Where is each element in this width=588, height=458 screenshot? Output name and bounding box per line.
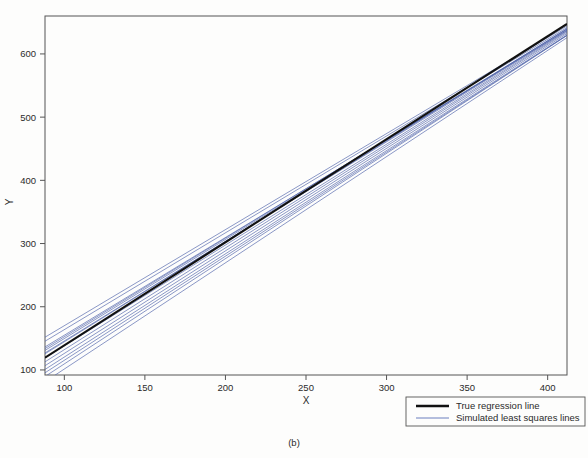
y-tick-label: 300 <box>20 238 36 249</box>
legend-label-simulated-lines: Simulated least squares lines <box>456 412 580 423</box>
figure-caption: (b) <box>288 437 300 448</box>
y-tick-label: 600 <box>20 48 36 59</box>
y-tick-label: 200 <box>20 301 36 312</box>
chart-legend: True regression line Simulated least squ… <box>406 397 585 426</box>
x-tick-label: 300 <box>379 382 395 393</box>
plot-frame <box>45 16 567 375</box>
x-tick-label: 400 <box>540 382 556 393</box>
x-tick-label: 150 <box>137 382 153 393</box>
x-tick-label: 100 <box>56 382 72 393</box>
x-axis-ticks: 100150200250300350400 <box>56 375 555 393</box>
y-tick-label: 500 <box>20 112 36 123</box>
x-tick-label: 200 <box>218 382 234 393</box>
y-axis-ticks: 100200300400500600 <box>20 48 45 375</box>
y-axis-title: Y <box>4 198 15 205</box>
x-tick-label: 250 <box>298 382 314 393</box>
y-tick-label: 100 <box>20 364 36 375</box>
figure-panel: 100200300400500600 100150200250300350400… <box>0 0 588 458</box>
legend-label-true-line: True regression line <box>456 400 540 411</box>
chart-canvas: 100200300400500600 100150200250300350400… <box>0 0 588 458</box>
y-tick-label: 400 <box>20 175 36 186</box>
x-tick-label: 350 <box>459 382 475 393</box>
x-axis-title: X <box>303 395 310 406</box>
